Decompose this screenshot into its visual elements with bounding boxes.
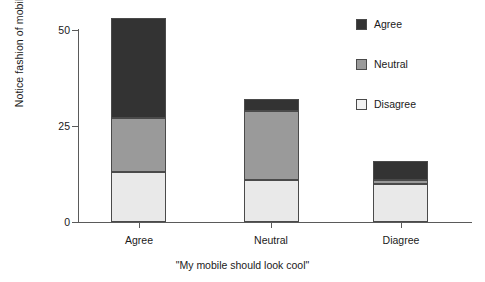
- y-axis-title-container: Notice fashion of mobiles (number): [0, 0, 36, 222]
- y-tick-mark-25: [72, 126, 78, 127]
- y-axis-title: Notice fashion of mobiles (number): [13, 0, 25, 129]
- x-category-label-diagree: Diagree: [341, 234, 461, 246]
- x-tick-mark-agree: [139, 222, 140, 228]
- x-category-label-agree: Agree: [79, 234, 199, 246]
- bar-segment-diagree-disagree[interactable]: [373, 184, 428, 222]
- bar-segment-agree-agree[interactable]: [111, 18, 166, 118]
- legend-label-neutral: Neutral: [374, 59, 408, 70]
- legend-item-agree[interactable]: Agree: [356, 18, 402, 30]
- stacked-bar-chart: Notice fashion of mobiles (number) 50 25…: [0, 0, 485, 282]
- legend-label-agree: Agree: [374, 19, 402, 30]
- x-tick-mark-diagree: [401, 222, 402, 228]
- legend-swatch-disagree-icon: [356, 99, 367, 110]
- y-axis-line: [78, 29, 79, 223]
- y-tick-mark-50: [72, 30, 78, 31]
- bar-segment-diagree-agree[interactable]: [373, 161, 428, 180]
- bar-segment-neutral-disagree[interactable]: [244, 180, 299, 222]
- y-tick-mark-0: [72, 222, 78, 223]
- bar-segment-neutral-neutral[interactable]: [244, 111, 299, 180]
- legend-item-neutral[interactable]: Neutral: [356, 58, 408, 70]
- x-axis-line: [78, 222, 472, 223]
- legend-item-disagree[interactable]: Disagree: [356, 98, 416, 110]
- legend-label-disagree: Disagree: [374, 99, 416, 110]
- y-tick-label-25: 25: [46, 121, 70, 131]
- legend-swatch-neutral-icon: [356, 59, 367, 70]
- bar-segment-agree-neutral[interactable]: [111, 118, 166, 172]
- y-tick-label-0: 0: [46, 217, 70, 227]
- bar-segment-neutral-agree[interactable]: [244, 99, 299, 111]
- legend-swatch-agree-icon: [356, 19, 367, 30]
- y-tick-label-50: 50: [46, 25, 70, 35]
- x-category-label-neutral: Neutral: [211, 234, 331, 246]
- x-tick-mark-neutral: [271, 222, 272, 228]
- bar-segment-agree-disagree[interactable]: [111, 172, 166, 222]
- x-axis-title: "My mobile should look cool": [0, 259, 485, 271]
